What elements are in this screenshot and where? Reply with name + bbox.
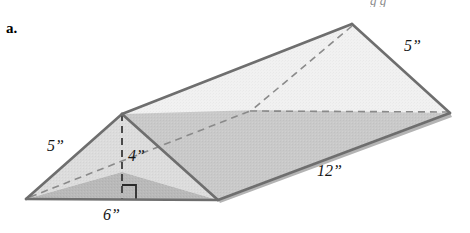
prism-drawing-canvas xyxy=(0,0,470,233)
part-label-a: a. xyxy=(6,21,17,36)
hidden-edge-back-bottom xyxy=(250,111,448,112)
edge-triangle-base xyxy=(26,199,218,200)
figure-triangular-prism: g g a. 5” 4” 6” 12” 5” xyxy=(0,0,470,233)
dimension-label-length: 12” xyxy=(317,163,342,179)
dimension-label-height: 4” xyxy=(128,148,145,164)
cut-off-text-top: g g xyxy=(370,0,386,7)
dimension-label-right-slant: 5” xyxy=(404,38,421,54)
dimension-label-base: 6” xyxy=(103,207,120,223)
dimension-label-left-slant: 5” xyxy=(47,138,64,154)
